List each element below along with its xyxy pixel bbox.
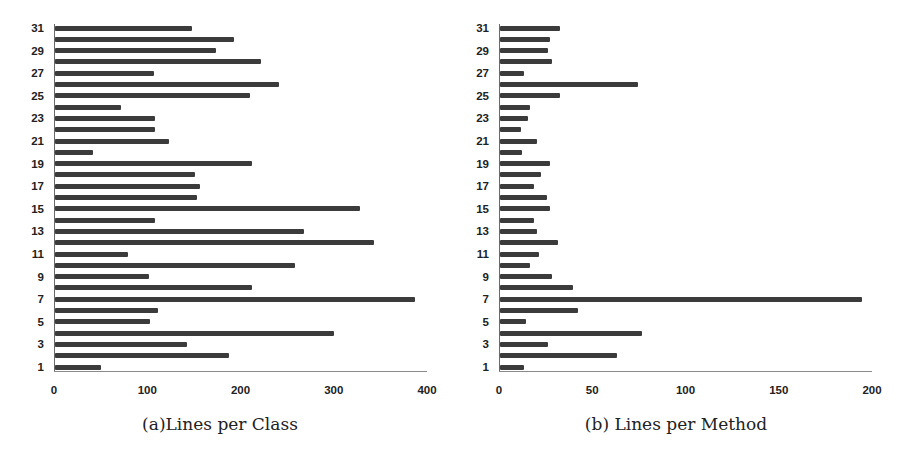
bar-12 — [500, 240, 558, 245]
bar-4 — [500, 331, 642, 336]
bar-3 — [500, 342, 548, 347]
bar-24 — [500, 105, 530, 110]
bar-27 — [500, 71, 524, 76]
bar-25 — [500, 93, 560, 98]
y-tick-label: 23 — [459, 112, 489, 124]
bar-23 — [500, 116, 528, 121]
y-tick-label: 29 — [459, 45, 489, 57]
bar-15 — [500, 206, 550, 211]
x-tick-label: 150 — [769, 384, 788, 396]
caption-lines-per-method: (b) Lines per Method — [585, 414, 767, 434]
y-tick-label: 5 — [459, 316, 489, 328]
bar-30 — [500, 37, 550, 42]
y-tick-label: 21 — [459, 135, 489, 147]
bar-10 — [500, 263, 530, 268]
bar-2 — [500, 353, 617, 358]
x-tick-label: 50 — [586, 384, 599, 396]
bar-18 — [500, 172, 541, 177]
bar-13 — [500, 229, 537, 234]
bar-22 — [500, 127, 521, 132]
bar-1 — [500, 365, 524, 370]
y-tick-label: 11 — [459, 248, 489, 260]
y-tick-label: 15 — [459, 203, 489, 215]
x-axis — [499, 371, 872, 372]
bar-20 — [500, 150, 522, 155]
bar-14 — [500, 218, 534, 223]
y-tick-label: 19 — [459, 158, 489, 170]
y-tick-label: 9 — [459, 271, 489, 283]
y-tick-label: 1 — [459, 361, 489, 373]
bar-8 — [500, 285, 573, 290]
x-tick-label: 0 — [496, 384, 502, 396]
chart-panel-b: 135791113151719212325272931 050100150200… — [0, 0, 907, 454]
bar-17 — [500, 184, 534, 189]
y-tick-label: 17 — [459, 180, 489, 192]
bar-7 — [500, 297, 862, 302]
bar-16 — [500, 195, 547, 200]
bar-11 — [500, 252, 539, 257]
bar-6 — [500, 308, 578, 313]
lines-per-method-plot — [499, 24, 872, 372]
y-tick-label: 7 — [459, 293, 489, 305]
y-tick-label: 25 — [459, 90, 489, 102]
y-tick-label: 13 — [459, 225, 489, 237]
y-tick-label: 31 — [459, 22, 489, 34]
bar-29 — [500, 48, 548, 53]
x-tick-label: 200 — [862, 384, 881, 396]
bar-21 — [500, 139, 537, 144]
x-tick-label: 100 — [676, 384, 695, 396]
bar-31 — [500, 26, 560, 31]
bar-26 — [500, 82, 638, 87]
y-tick-label: 27 — [459, 67, 489, 79]
bar-28 — [500, 59, 552, 64]
bar-5 — [500, 319, 526, 324]
y-tick-label: 3 — [459, 338, 489, 350]
bar-19 — [500, 161, 550, 166]
bar-9 — [500, 274, 552, 279]
